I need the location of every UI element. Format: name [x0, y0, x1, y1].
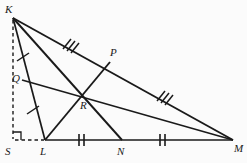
vertex-label-N: N: [117, 146, 124, 157]
geometry-diagram: K L M N P Q R S: [0, 0, 247, 163]
vertex-label-L: L: [40, 146, 46, 157]
geometry-canvas: [0, 0, 247, 163]
vertex-label-R: R: [80, 100, 87, 111]
vertex-label-Q: Q: [12, 73, 20, 84]
vertex-label-K: K: [5, 4, 12, 15]
vertex-label-M: M: [234, 143, 243, 154]
vertex-label-P: P: [110, 47, 117, 58]
vertex-label-S: S: [5, 146, 11, 157]
side-KM: [13, 18, 233, 140]
median-LP: [45, 62, 110, 140]
right-angle-marker-s: [13, 132, 21, 140]
triangle-sides: [13, 18, 233, 140]
